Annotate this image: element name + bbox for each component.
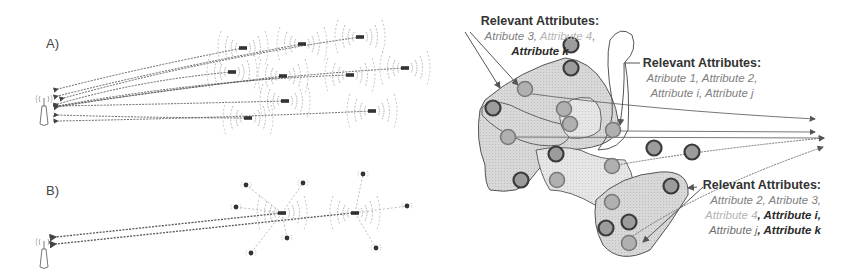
- attribute-group-3: Relevant Attributes: Attribute 2, Atribu…: [693, 178, 821, 238]
- attribute-group-title: Relevant Attributes:: [693, 178, 821, 193]
- attribute-group-title: Relevant Attributes:: [465, 14, 615, 29]
- attribute-line: Attribute k: [465, 44, 615, 59]
- attribute-line: Attribute 4, Attribute i,: [693, 208, 821, 223]
- attribute-item: Atribute 3: [485, 30, 534, 42]
- attribute-group-2: Relevant Attributes: Atribute 1, Attribu…: [632, 56, 772, 101]
- attribute-line: Atribute 1, Attribute 2,: [632, 71, 772, 86]
- diagram-canvas: [0, 0, 865, 280]
- panel-a-diagram: [36, 20, 430, 135]
- attribute-item: Attribute 4: [540, 30, 592, 42]
- attribute-item: , Attribute i,: [758, 209, 821, 221]
- base-station-icon-b: [36, 238, 52, 269]
- figure: A) B): [0, 0, 865, 280]
- attribute-line: Attribute 2, Atribute 3,: [693, 193, 821, 208]
- attribute-group-title: Relevant Attributes:: [632, 56, 772, 71]
- attribute-group-1: Relevant Attributes: Atribute 3, Attribu…: [465, 14, 615, 59]
- separator: ,: [592, 30, 595, 42]
- base-station-icon: [36, 95, 52, 126]
- attribute-line: Attribute i, Attribute j: [632, 86, 772, 101]
- attribute-item: Attribute j: [709, 224, 758, 236]
- attribute-item: Attribute k: [511, 45, 569, 57]
- attribute-line: Attribute j, Attribute k: [693, 223, 821, 238]
- attribute-line: Atribute 3, Attribute 4,: [465, 29, 615, 44]
- attribute-item: Attribute 4: [705, 209, 757, 221]
- panel-b-diagram: [36, 171, 412, 269]
- attribute-item: , Attribute k: [758, 224, 821, 236]
